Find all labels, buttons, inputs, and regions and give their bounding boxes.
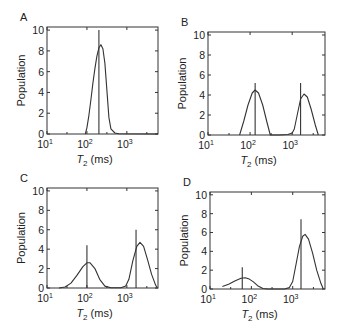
y-tick-label: 8 — [38, 204, 44, 216]
x-tick-base: 10 — [242, 293, 254, 305]
x-tick-base: 10 — [200, 293, 212, 305]
x-tick-exponent: 2 — [253, 293, 257, 300]
panel-label: B — [181, 16, 188, 28]
y-tick-label: 10 — [32, 24, 44, 36]
y-tick-label: 2 — [38, 263, 44, 275]
x-tick-exponent: 1 — [49, 138, 53, 145]
y-tick-label: 6 — [38, 66, 44, 78]
x-tick-label: 101 — [37, 138, 53, 150]
x-tick-exponent: 2 — [89, 292, 93, 299]
y-tick-label: 2 — [199, 109, 205, 121]
y-tick-label: 2 — [201, 264, 207, 276]
y-tick-label: 4 — [201, 245, 207, 257]
x-tick-base: 10 — [117, 292, 129, 304]
x-tick-base: 10 — [198, 139, 210, 151]
x-tick-label: 103 — [283, 293, 299, 305]
x-axis-label: T2 (ms) — [76, 153, 112, 168]
x-tick-label: 102 — [77, 292, 93, 304]
x-tick-label: 101 — [37, 292, 53, 304]
panel-label: A — [20, 11, 28, 23]
y-axis-label: Population — [15, 55, 27, 107]
x-axis-label: T2 (ms) — [240, 154, 276, 169]
x-tick-exponent: 3 — [129, 292, 133, 299]
y-tick-label: 4 — [38, 243, 44, 255]
x-tick-label: 102 — [240, 139, 256, 151]
x-tick-label: 101 — [200, 293, 216, 305]
x-tick-exponent: 1 — [49, 292, 53, 299]
x-tick-base: 10 — [37, 138, 49, 150]
y-tick-label: 4 — [38, 86, 44, 98]
x-tick-exponent: 1 — [210, 139, 214, 146]
y-tick-label: 8 — [201, 208, 207, 220]
x-tick-base: 10 — [77, 138, 89, 150]
distribution-curve — [240, 90, 319, 135]
y-axis-label: Population — [176, 58, 188, 110]
panel-d: D0246810101102103T2 (ms)Population — [178, 176, 325, 323]
y-tick-label: 2 — [38, 107, 44, 119]
x-tick-exponent: 3 — [295, 293, 299, 300]
y-tick-label: 4 — [199, 89, 205, 101]
x-tick-label: 102 — [242, 293, 258, 305]
y-tick-label: 10 — [32, 185, 44, 197]
x-axis-label-units: (ms) — [88, 307, 113, 319]
y-tick-label: 8 — [38, 45, 44, 57]
plot-frame — [210, 192, 325, 289]
x-tick-exponent: 3 — [294, 139, 298, 146]
panel-label: D — [183, 176, 191, 188]
panel-c: C0246810101102103T2 (ms)Population — [15, 172, 158, 322]
distribution-curve — [85, 45, 158, 134]
x-tick-label: 102 — [77, 138, 93, 150]
x-axis-label: T2 (ms) — [76, 307, 112, 322]
y-axis-label: Population — [178, 215, 190, 267]
y-axis-label: Population — [15, 212, 27, 264]
y-tick-label: 6 — [38, 224, 44, 236]
panel-a: A0246810101102103T2 (ms)Population — [15, 11, 158, 168]
x-tick-base: 10 — [37, 292, 49, 304]
plot-frame — [47, 27, 158, 134]
x-tick-label: 103 — [117, 138, 133, 150]
x-tick-base: 10 — [283, 293, 295, 305]
y-tick-label: 10 — [195, 189, 207, 201]
x-tick-base: 10 — [240, 139, 252, 151]
x-tick-base: 10 — [117, 138, 129, 150]
x-tick-exponent: 1 — [212, 293, 216, 300]
x-axis-label-units: (ms) — [88, 153, 113, 165]
distribution-curve — [59, 242, 157, 288]
x-axis-label-units: (ms) — [252, 154, 277, 166]
x-axis-label: T2 (ms) — [241, 308, 277, 323]
x-tick-exponent: 2 — [252, 139, 256, 146]
figure: A0246810101102103T2 (ms)Population B0246… — [0, 0, 341, 334]
y-tick-label: 8 — [199, 49, 205, 61]
panel-label: C — [20, 172, 28, 184]
x-tick-exponent: 2 — [89, 138, 93, 145]
x-axis-label-units: (ms) — [253, 308, 278, 320]
plot-frame — [47, 188, 158, 288]
x-tick-exponent: 3 — [129, 138, 133, 145]
y-tick-label: 6 — [201, 226, 207, 238]
x-tick-base: 10 — [77, 292, 89, 304]
y-tick-label: 6 — [199, 69, 205, 81]
y-tick-label: 10 — [193, 29, 205, 41]
distribution-curve — [222, 234, 323, 289]
x-tick-base: 10 — [282, 139, 294, 151]
x-tick-label: 101 — [198, 139, 214, 151]
panel-b: B0246810101102103T2 (ms)Population — [176, 16, 325, 169]
x-tick-label: 103 — [282, 139, 298, 151]
x-tick-label: 103 — [117, 292, 133, 304]
